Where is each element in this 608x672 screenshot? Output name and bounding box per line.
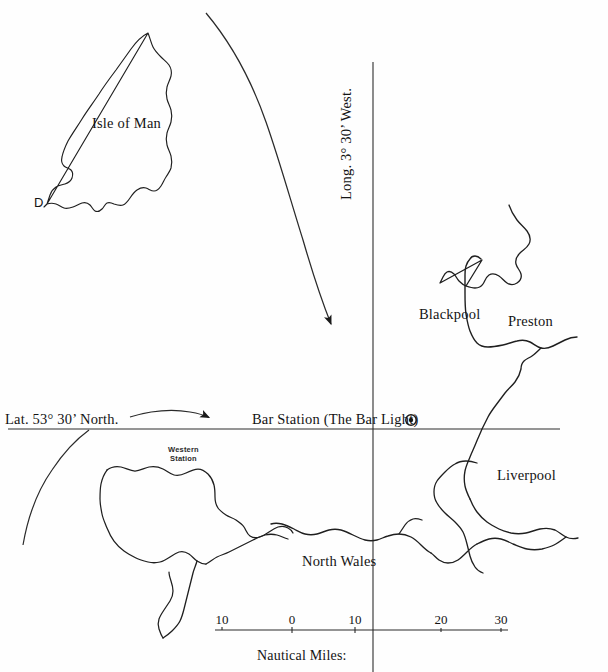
north-approach-arrow [206, 13, 331, 324]
menai-strait-coastline [206, 534, 288, 564]
anglesey-coastline [107, 467, 293, 538]
blackpool-ribble-coastline [465, 256, 577, 348]
graticule-lines [8, 62, 560, 672]
scale-tick-label-2: 10 [349, 612, 362, 628]
label-isle-of-man: Isle of Man [92, 115, 161, 132]
scale-tick-label-1: 0 [289, 612, 296, 628]
label-longitude: Long. 3° 30’ West. [338, 88, 355, 200]
scale-tick-label-0: 10 [216, 612, 229, 628]
southwest-arc [23, 430, 89, 545]
label-western-station-line2: Station [168, 454, 199, 463]
fylde-coastline [440, 260, 482, 286]
label-liverpool: Liverpool [497, 467, 556, 484]
label-blackpool: Blackpool [419, 306, 480, 323]
label-north-wales: North Wales [302, 553, 376, 570]
latitude-approach-arrow [130, 411, 209, 418]
nautical-chart: Isle of Man D Blackpool Preston Liverpoo… [0, 0, 608, 672]
scale-tick-label-3: 20 [435, 612, 448, 628]
map-canvas [0, 0, 608, 672]
label-bar-station: Bar Station (The Bar Light) [252, 411, 418, 428]
scale-tick-label-4: 30 [495, 612, 508, 628]
label-western-station: Western Station [168, 445, 199, 463]
dee-estuary-coastline [431, 544, 477, 563]
conwy-coastline [399, 519, 422, 534]
wirral-south-coastline [477, 537, 566, 550]
label-scale-title: Nautical Miles: [257, 648, 347, 664]
mersey-estuary-coastline [470, 499, 578, 539]
label-d-marker: D [34, 195, 44, 210]
north-wales-coastline [271, 523, 431, 553]
lleyn-peninsula-coastline [163, 561, 197, 638]
label-latitude: Lat. 53° 30’ North. [5, 411, 119, 428]
scale-bar [215, 627, 508, 633]
lancashire-coastline [466, 205, 530, 288]
lleyn-inner-coastline [158, 572, 173, 638]
wirral-peninsula-coastline [434, 461, 483, 573]
label-preston: Preston [508, 313, 553, 330]
anglesey-west-coastline [100, 470, 206, 564]
label-western-station-line1: Western [168, 445, 199, 454]
